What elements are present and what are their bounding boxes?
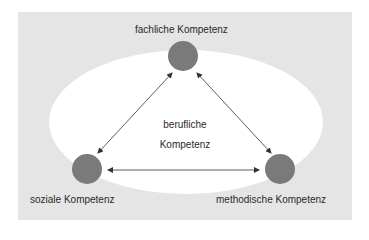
label-fachliche-kompetenz: fachliche Kompetenz <box>135 24 228 35</box>
node-methodische-kompetenz <box>265 154 295 184</box>
label-soziale-kompetenz: soziale Kompetenz <box>30 194 115 205</box>
label-methodische-kompetenz: methodische Kompetenz <box>216 194 326 205</box>
center-label-line1: berufliche <box>140 115 230 135</box>
center-label: berufliche Kompetenz <box>140 115 230 155</box>
center-label-line2: Kompetenz <box>140 135 230 155</box>
node-soziale-kompetenz <box>72 154 102 184</box>
node-fachliche-kompetenz <box>168 41 198 71</box>
